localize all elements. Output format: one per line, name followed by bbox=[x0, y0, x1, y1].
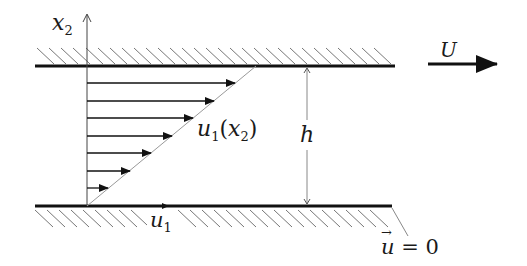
x2-axis-label: x2 bbox=[52, 12, 73, 34]
top-plate-hatching bbox=[37, 48, 391, 64]
velocity-profile-label: u1(x2) bbox=[197, 118, 257, 140]
vector-arrow-icon: → bbox=[381, 226, 392, 239]
no-slip-leader bbox=[392, 208, 408, 236]
no-slip-label: u→ = 0 bbox=[381, 237, 439, 258]
gap-height-label: h bbox=[300, 124, 314, 146]
plate-velocity-label: U bbox=[440, 40, 457, 60]
flow-direction-label: u1 bbox=[150, 210, 172, 231]
bottom-plate-hatching bbox=[35, 210, 388, 227]
